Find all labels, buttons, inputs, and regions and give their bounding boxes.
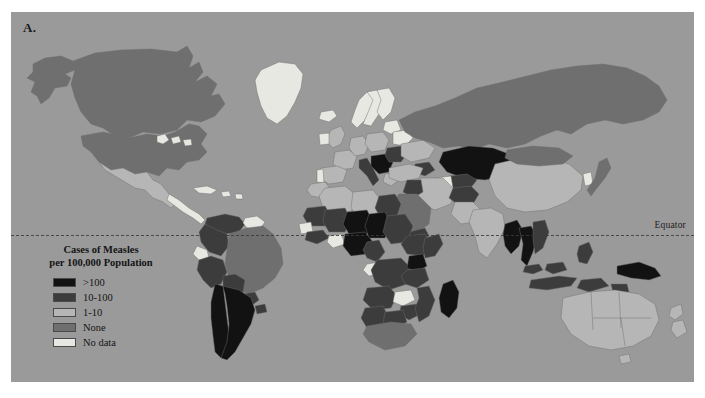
panel-label: A. xyxy=(23,20,36,36)
legend-swatch xyxy=(53,293,76,302)
equator-label: Equator xyxy=(655,220,686,230)
region-canada xyxy=(71,46,225,138)
legend-swatch xyxy=(53,338,76,347)
legend-label: >100 xyxy=(83,277,105,288)
legend-title: Cases of Measles per 100,000 Population xyxy=(30,244,172,269)
legend-label: No data xyxy=(83,337,116,348)
region-madagascar xyxy=(439,280,459,318)
region-mongolia xyxy=(505,146,573,166)
region-zambia xyxy=(393,290,415,306)
region-afghanistan xyxy=(449,186,479,204)
region-greenland xyxy=(255,62,303,124)
region-caribbean xyxy=(193,186,243,199)
region-somalia xyxy=(423,234,443,258)
legend-row: 1-10 xyxy=(53,305,180,320)
figure-root: Equator A. Cases of Measles per 100,000 … xyxy=(0,0,705,398)
region-guinea xyxy=(305,230,329,244)
equator-line xyxy=(11,235,694,236)
legend-row: No data xyxy=(53,335,180,350)
region-myanmar xyxy=(503,220,523,254)
region-china xyxy=(489,158,583,212)
region-australia xyxy=(561,290,659,350)
region-poland xyxy=(365,132,389,152)
region-alaska xyxy=(27,56,75,104)
region-papua-new-guinea xyxy=(617,262,661,280)
region-philippines xyxy=(577,242,593,264)
region-russia xyxy=(399,64,667,150)
region-finland xyxy=(377,88,395,120)
region-south-africa xyxy=(363,322,417,350)
legend-items: >100 10-100 1-10 None No data xyxy=(30,275,180,350)
region-indonesia xyxy=(529,276,629,292)
legend-title-line1: Cases of Measles xyxy=(30,244,172,257)
region-malaysia xyxy=(523,262,567,274)
region-iceland xyxy=(319,110,337,122)
legend-title-line2: per 100,000 Population xyxy=(30,257,172,270)
legend-label: None xyxy=(83,322,106,333)
legend-swatch xyxy=(53,308,76,317)
region-india xyxy=(469,208,505,258)
region-cameroon xyxy=(363,240,385,262)
legend-swatch xyxy=(53,323,76,332)
legend-label: 10-100 xyxy=(83,292,113,303)
legend-row: 10-100 xyxy=(53,290,180,305)
region-central-america xyxy=(167,194,205,224)
map-legend: Cases of Measles per 100,000 Population … xyxy=(30,244,180,350)
legend-swatch xyxy=(53,278,76,287)
legend-row: >100 xyxy=(53,275,180,290)
legend-row: None xyxy=(53,320,180,335)
region-ghana xyxy=(327,234,345,248)
region-mozambique xyxy=(415,286,435,322)
region-vietnam xyxy=(533,220,549,254)
region-ireland xyxy=(319,133,329,145)
region-turkey xyxy=(389,164,423,182)
region-new-zealand xyxy=(669,304,687,338)
region-ukraine xyxy=(401,140,435,162)
region-uruguay xyxy=(255,304,267,314)
region-united-kingdom xyxy=(327,126,345,148)
region-tasmania xyxy=(619,354,631,364)
map-panel: Equator A. Cases of Measles per 100,000 … xyxy=(11,12,694,382)
region-peru xyxy=(197,256,227,288)
legend-label: 1-10 xyxy=(83,307,102,318)
region-portugal xyxy=(317,169,324,183)
